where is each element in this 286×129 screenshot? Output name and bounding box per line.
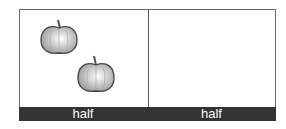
panel-label-left: half: [19, 107, 147, 121]
panel-label-right: half: [147, 107, 276, 121]
fraction-diagram: [19, 9, 276, 107]
panel-divider: [148, 10, 149, 107]
apple-icon: [75, 52, 117, 96]
apple-icon: [38, 16, 80, 58]
label-bar: half half: [19, 107, 276, 121]
